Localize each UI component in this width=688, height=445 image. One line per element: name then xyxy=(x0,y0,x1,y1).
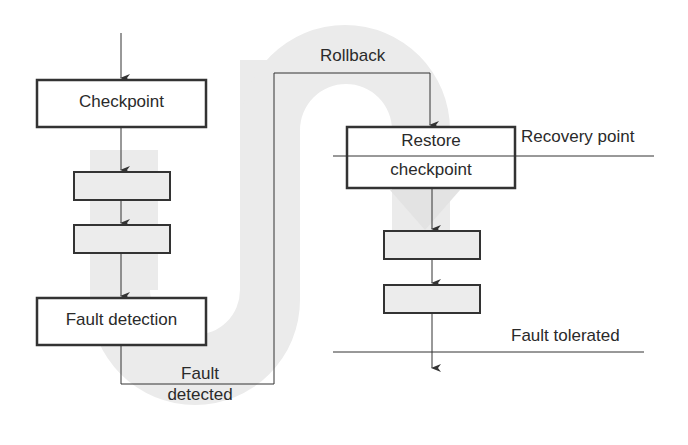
rollback-label: Rollback xyxy=(320,46,385,66)
fault-tolerated-label: Fault tolerated xyxy=(511,326,620,346)
step-box-3 xyxy=(384,231,480,259)
restore-checkpoint-label: checkpoint xyxy=(347,160,515,180)
recovery-point-label: Recovery point xyxy=(521,127,634,147)
fault-detection-label: Fault detection xyxy=(37,310,206,330)
step-box-4 xyxy=(384,285,480,313)
checkpoint-label: Checkpoint xyxy=(37,92,206,112)
step-box-2 xyxy=(74,225,170,253)
restore-label: Restore xyxy=(347,131,515,151)
fault-detected-label-1: Fault xyxy=(160,364,240,384)
step-box-1 xyxy=(74,172,170,200)
fault-detected-label-2: detected xyxy=(160,385,240,405)
diagram-canvas xyxy=(0,0,688,445)
